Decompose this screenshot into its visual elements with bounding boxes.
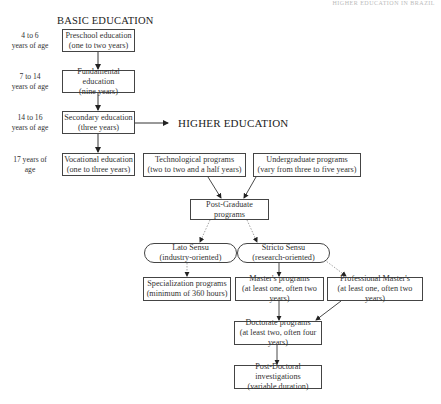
node-subtitle: (industry-oriented) [160,253,222,263]
age-range: 14 to 16 [4,113,56,123]
node-doctorate: Doctorate programs (at least two, often … [234,321,322,345]
node-professional-masters: Professional Master's (at least one, oft… [327,277,423,301]
node-subtitle: (nine years) [79,87,118,97]
node-title: Professional Master's [340,274,410,284]
node-stricto-sensu: Stricto Sensu (research-oriented) [237,243,330,263]
basic-education-title: BASIC EDUCATION [57,15,154,26]
node-subtitle: (vary from three to five years) [258,165,357,175]
node-fundamental: Fundamental education (nine years) [62,70,135,93]
age-range: 4 to 6 [4,31,56,41]
age-range: 7 to 14 [4,72,56,82]
node-preschool: Preschool education (one to two years) [62,29,135,52]
node-title: Preschool education [65,31,131,41]
age-unit: years of age [4,41,56,51]
node-subtitle: (one to three years) [67,165,130,175]
higher-education-title: HIGHER EDUCATION [178,117,288,129]
node-title: Lato Sensu [172,243,209,253]
node-undergraduate: Undergraduate programs (vary from three … [253,153,361,177]
node-lato-sensu: Lato Sensu (industry-oriented) [144,243,237,263]
age-unit: years of age [4,123,56,133]
node-vocational: Vocational education (one to three years… [62,153,135,176]
node-title: Vocational education [64,155,133,165]
node-subtitle: (research-oriented) [252,253,314,263]
node-subtitle: (one to two years) [69,41,128,51]
node-subtitle: (three years) [78,123,119,133]
age-label-fundamental: 7 to 14 years of age [4,72,56,91]
node-secondary: Secondary education (three years) [62,111,135,134]
node-title: Secondary education [64,113,132,123]
node-postgraduate: Post-Graduate programs [190,199,269,220]
node-title: Post-Doctoral investigations [235,362,321,382]
node-subtitle: (variable duration) [247,382,308,392]
age-range: 17 years of [4,155,56,165]
node-title: Fundamental education [63,67,134,87]
node-title: Undergraduate programs [266,155,347,165]
node-subtitle: (at least one, often two years) [236,284,323,304]
node-subtitle: (at least one, often two years) [328,284,422,304]
node-title: Technological programs [155,155,234,165]
node-title: Post-Graduate programs [191,200,268,220]
node-title: Stricto Sensu [262,243,305,253]
age-label-vocational: 17 years of age [4,155,56,174]
node-subtitle: (minimum of 360 hours) [147,289,228,299]
age-unit: years of age [4,82,56,92]
node-technological: Technological programs (two to two and a… [143,153,246,177]
node-title: Specialization programs [147,279,226,289]
age-unit: age [4,165,56,175]
age-label-preschool: 4 to 6 years of age [4,31,56,50]
age-label-secondary: 14 to 16 years of age [4,113,56,132]
node-postdoctoral: Post-Doctoral investigations (variable d… [234,365,322,389]
node-specialization: Specialization programs (minimum of 360 … [143,277,231,301]
node-subtitle: (two to two and a half years) [147,165,241,175]
node-subtitle: (at least two, often four years) [235,328,321,348]
node-title: Doctorate programs [245,318,310,328]
node-title: Master's programs [249,274,309,284]
node-masters: Master's programs (at least one, often t… [235,277,324,301]
